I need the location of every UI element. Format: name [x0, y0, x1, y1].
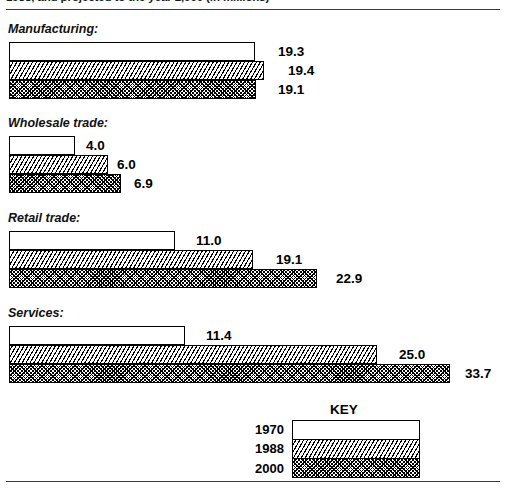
key-title: KEY [330, 402, 358, 417]
group-label-services: Services: [8, 306, 64, 320]
bar-retail-1988 [9, 250, 253, 269]
bottom-divider-rule [6, 481, 500, 482]
bar-value-wholesale-1988: 6.0 [117, 155, 136, 174]
bar-wholesale-2000 [9, 174, 121, 193]
key-year-2000: 2000 [255, 459, 284, 478]
group-label-wholesale-trade: Wholesale trade: [8, 116, 108, 130]
bar-value-wholesale-1970: 4.0 [86, 136, 105, 155]
bar-manufacturing-1970 [9, 42, 255, 61]
key-swatch-box [292, 420, 420, 478]
group-label-manufacturing: Manufacturing: [8, 22, 98, 36]
group-label-retail-trade: Retail trade: [8, 211, 80, 225]
bar-value-retail-1970: 11.0 [196, 231, 222, 250]
bar-value-retail-1988: 19.1 [276, 250, 302, 269]
bar-wholesale-1988 [9, 155, 108, 174]
bar-services-2000 [9, 364, 450, 383]
bar-wholesale-1970 [9, 136, 75, 155]
bar-services-1970 [9, 326, 185, 345]
key-swatch-1988 [293, 439, 419, 458]
key-year-1988: 1988 [255, 439, 284, 458]
bar-value-services-2000: 33.7 [465, 364, 491, 383]
bar-manufacturing-2000 [9, 80, 256, 99]
key-year-labels: 1970 1988 2000 [236, 420, 284, 478]
key-swatch-1970 [293, 421, 419, 440]
bar-value-manufacturing-1970: 19.3 [278, 42, 304, 61]
bar-retail-2000 [9, 269, 317, 288]
bar-manufacturing-1988 [9, 61, 264, 80]
bar-retail-1970 [9, 231, 175, 250]
bar-value-manufacturing-2000: 19.1 [278, 80, 304, 99]
chart-title: 1988, and projected to the year 2,000 (i… [6, 0, 476, 3]
bar-value-wholesale-2000: 6.9 [134, 174, 153, 193]
key-swatch-2000 [293, 458, 419, 477]
key-year-1970: 1970 [255, 420, 284, 439]
bar-value-manufacturing-1988: 19.4 [288, 61, 314, 80]
bar-value-services-1988: 25.0 [399, 345, 425, 364]
bar-services-1988 [9, 345, 377, 364]
bar-value-services-1970: 11.4 [206, 326, 232, 345]
top-divider-rule [6, 9, 500, 10]
bar-value-retail-2000: 22.9 [336, 269, 362, 288]
